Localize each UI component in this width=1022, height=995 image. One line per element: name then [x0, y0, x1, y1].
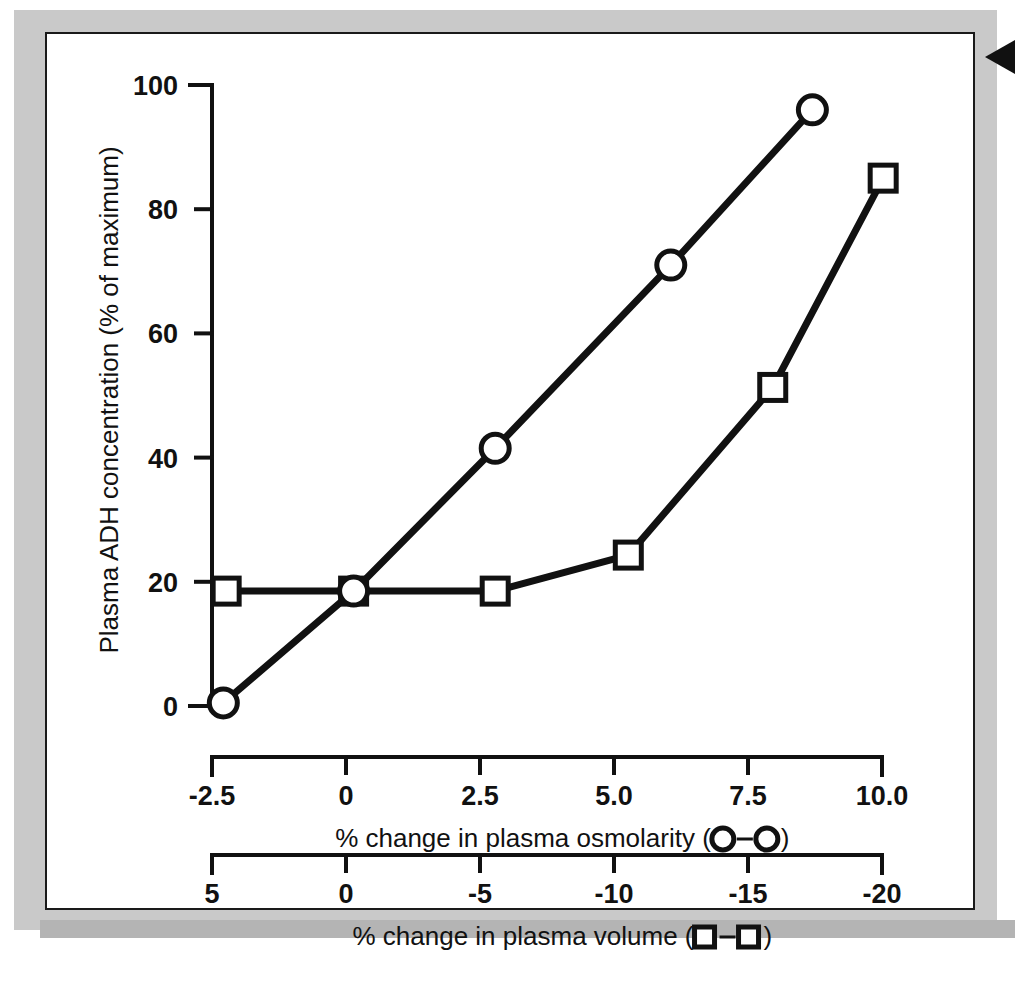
circle-data-point: [209, 689, 237, 717]
osmolarity-tick-group: -2.502.55.07.510.0: [189, 757, 909, 811]
y-axis-title: Plasma ADH concentration (% of maximum): [94, 146, 124, 653]
x-tick-label: -2.5: [189, 781, 236, 811]
y-tick-label: 60: [148, 319, 178, 349]
plasma-osmolarity-markers: [209, 96, 826, 717]
circle-data-point: [481, 434, 509, 462]
x-tick-label: 2.5: [461, 781, 499, 811]
legend-circle-icon: [712, 828, 734, 850]
y-axis: 020406080100: [133, 71, 212, 722]
volume-axis: 50-5-10-15-20: [204, 855, 901, 909]
axis-title-text: % change in plasma volume (: [352, 921, 693, 951]
y-tick-label: 40: [148, 444, 178, 474]
figure-root: 020406080100 Plasma ADH concentration (%…: [0, 0, 1022, 995]
y-axis-line: [190, 85, 212, 706]
y-tick-label: 20: [148, 568, 178, 598]
square-data-point: [760, 374, 786, 400]
x-tick-label: -15: [728, 879, 767, 909]
square-data-point: [870, 165, 896, 191]
legend-square-icon: [739, 927, 759, 947]
y-tick-label: 100: [133, 71, 178, 101]
y-tick-label: 80: [148, 195, 178, 225]
x-tick-label: 5: [204, 879, 219, 909]
series-group: [209, 96, 896, 717]
adh-response-chart: 020406080100 Plasma ADH concentration (%…: [0, 0, 1022, 995]
volume-tick-group: 50-5-10-15-20: [204, 855, 901, 909]
square-data-point: [482, 578, 508, 604]
axis-title-suffix: ): [764, 921, 773, 951]
x-tick-label: -20: [862, 879, 901, 909]
osmolarity-axis-title: % change in plasma osmolarity (): [335, 823, 789, 853]
x-tick-label: 7.5: [729, 781, 767, 811]
legend-circle-icon: [756, 828, 778, 850]
square-data-point: [213, 578, 239, 604]
x-tick-label: 0: [338, 879, 353, 909]
x-tick-label: 0: [338, 781, 353, 811]
axis-title-text: % change in plasma osmolarity (: [335, 823, 711, 853]
circle-data-point: [657, 251, 685, 279]
x-tick-label: -5: [468, 879, 492, 909]
x-tick-label: -10: [594, 879, 633, 909]
volume-axis-line: [212, 855, 882, 873]
square-data-point: [615, 542, 641, 568]
circle-data-point: [798, 96, 826, 124]
y-tick-label: 0: [163, 692, 178, 722]
volume-axis-title: % change in plasma volume (): [352, 921, 772, 951]
plasma-osmolarity-series-line: [223, 110, 812, 703]
osmolarity-axis-line: [212, 757, 882, 775]
legend-square-icon: [695, 927, 715, 947]
osmolarity-axis: -2.502.55.07.510.0: [189, 757, 909, 811]
circle-data-point: [340, 577, 368, 605]
y-tick-group: 020406080100: [133, 71, 212, 722]
axis-title-suffix: ): [781, 823, 790, 853]
x-tick-label: 10.0: [856, 781, 909, 811]
x-tick-label: 5.0: [595, 781, 633, 811]
